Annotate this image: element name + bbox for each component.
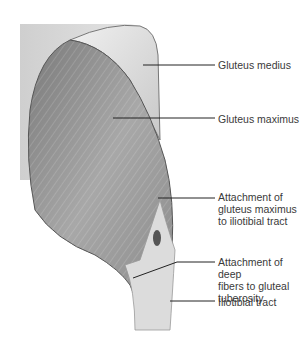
label-gluteus-maximus: Gluteus maximus (218, 113, 299, 125)
label-iliotibial-tract: Iliotibial tract (218, 296, 276, 308)
label-attachment-iliotibial: Attachment of gluteus maximus to iliotib… (218, 191, 297, 227)
label-gluteus-medius: Gluteus medius (218, 59, 291, 71)
